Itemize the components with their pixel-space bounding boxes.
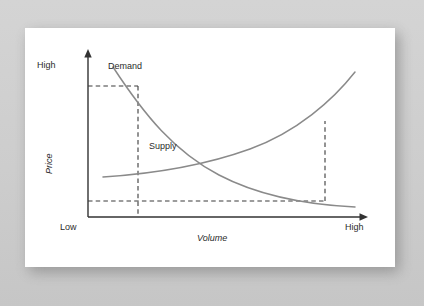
x-axis-title: Volume: [197, 233, 227, 244]
demand-curve: [113, 67, 355, 207]
x-axis-high-label: High: [345, 222, 364, 233]
y-axis-title: Price: [44, 153, 55, 174]
x-axis: [88, 213, 368, 220]
x-axis-low-label: Low: [60, 222, 77, 233]
y-axis: [84, 49, 91, 217]
supply-curve: [103, 72, 355, 177]
guideline-low-price: [88, 121, 325, 201]
y-axis-high-label: High: [37, 60, 56, 71]
page-background: High Price Demand Supply Low High Volume: [0, 0, 424, 306]
supply-curve-label: Supply: [149, 141, 177, 152]
guideline-high-price: [88, 86, 138, 217]
figure-card: High Price Demand Supply Low High Volume: [25, 28, 395, 267]
supply-demand-chart: [25, 28, 395, 267]
demand-curve-label: Demand: [108, 61, 142, 72]
